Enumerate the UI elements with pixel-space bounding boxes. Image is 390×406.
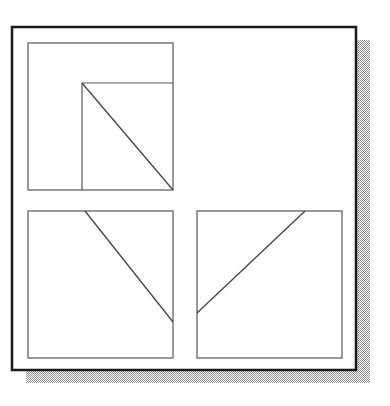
figure-root <box>0 0 390 406</box>
figure-canvas <box>0 0 390 406</box>
outer-card <box>12 27 356 370</box>
